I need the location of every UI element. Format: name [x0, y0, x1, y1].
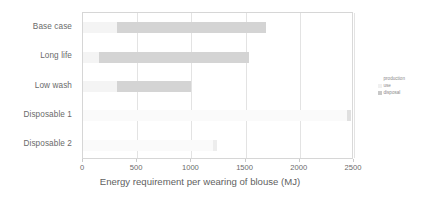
bar-segment-production[interactable] [83, 110, 347, 121]
x-tick-label-1000: 1000 [182, 163, 199, 172]
bar-low-wash[interactable] [83, 81, 354, 92]
y-axis-labels: Base caseLong lifeLow washDisposable 1Di… [0, 12, 76, 159]
chart-container: Base caseLong lifeLow washDisposable 1Di… [0, 0, 430, 199]
y-axis-label-disposable-2: Disposable 2 [0, 139, 72, 148]
bar-disposable-1[interactable] [83, 110, 354, 121]
x-tick-label-500: 500 [130, 163, 143, 172]
legend-label-use: use [384, 83, 391, 89]
x-tick-mark-0 [82, 159, 83, 162]
gridline-2500 [354, 13, 355, 158]
legend-items: usedisposal [378, 83, 428, 96]
bar-disposable-2[interactable] [83, 140, 354, 151]
x-tick-label-2000: 2000 [290, 163, 307, 172]
bar-segment-production[interactable] [83, 140, 213, 151]
bar-segment-production[interactable] [83, 22, 117, 33]
x-tick-label-0: 0 [80, 163, 84, 172]
x-axis-ticks: 05001000150020002500 [82, 159, 353, 173]
bar-segment-production[interactable] [83, 81, 117, 92]
legend-swatch-use [378, 84, 382, 88]
plot-area [82, 12, 353, 159]
bar-segment-disposal[interactable] [117, 81, 192, 92]
y-axis-label-low-wash: Low wash [0, 81, 72, 90]
x-tick-mark-500 [136, 159, 137, 162]
bar-segment-disposal[interactable] [213, 140, 217, 151]
x-tick-mark-1500 [245, 159, 246, 162]
x-tick-mark-2500 [353, 159, 354, 162]
legend-swatch-disposal [378, 91, 382, 95]
legend-item-use[interactable]: use [378, 83, 428, 89]
bar-segment-disposal[interactable] [347, 110, 350, 121]
legend-item-disposal[interactable]: disposal [378, 90, 428, 96]
bar-segment-disposal[interactable] [99, 52, 249, 63]
x-axis-title: Energy requirement per wearing of blouse… [0, 176, 400, 187]
legend: production usedisposal [378, 76, 428, 97]
y-axis-label-long-life: Long life [0, 51, 72, 60]
x-tick-mark-2000 [299, 159, 300, 162]
x-tick-label-1500: 1500 [236, 163, 253, 172]
bar-long-life[interactable] [83, 52, 354, 63]
bar-segment-production[interactable] [83, 52, 99, 63]
bar-base-case[interactable] [83, 22, 354, 33]
y-axis-label-disposable-1: Disposable 1 [0, 110, 72, 119]
y-axis-label-base-case: Base case [0, 22, 72, 31]
legend-title: production [384, 76, 429, 81]
legend-label-disposal: disposal [384, 90, 401, 96]
bar-segment-disposal[interactable] [117, 22, 267, 33]
x-tick-mark-1000 [190, 159, 191, 162]
x-tick-label-2500: 2500 [345, 163, 362, 172]
